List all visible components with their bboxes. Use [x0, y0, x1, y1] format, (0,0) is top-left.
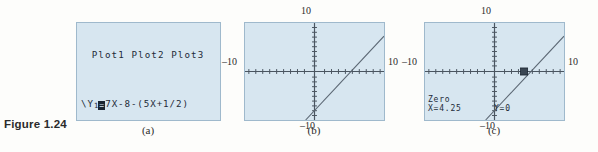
panel-label-a: (a)	[128, 124, 168, 136]
graph-c-right-axis-label: 10	[568, 56, 578, 67]
function-curve	[306, 36, 384, 120]
graph-c-left-axis-label: –10	[402, 56, 417, 67]
zero-trace-y-value: Y=0	[494, 104, 511, 113]
y-entry-row-1[interactable]: \Y1=7X-8-(5X+1/2)	[81, 98, 220, 112]
figure-caption: Figure 1.24	[4, 118, 67, 130]
graph-c-top-axis-label: 10	[481, 5, 491, 16]
calculator-y-editor-screen: Plot1 Plot2 Plot3 \Y1=7X-8-(5X+1/2) \Y2=…	[76, 22, 221, 121]
panel-label-c: (c)	[474, 124, 514, 136]
zero-trace-title: Zero	[428, 95, 450, 104]
graph-b-right-axis-label: 10	[388, 56, 398, 67]
graph-b-left-axis-label: –10	[222, 56, 237, 67]
y1-expression[interactable]: 7X-8-(5X+1/2)	[105, 98, 189, 109]
zero-trace-x-value: X=4.25	[428, 104, 462, 113]
lcd-content: Plot1 Plot2 Plot3 \Y1=7X-8-(5X+1/2) \Y2=…	[77, 23, 220, 121]
plot-tabs-row[interactable]: Plot1 Plot2 Plot3	[81, 49, 220, 61]
panel-label-b: (b)	[294, 124, 334, 136]
zero-cursor-marker	[521, 68, 528, 75]
graph-b-svg	[245, 23, 384, 120]
calculator-graph-screen-b	[244, 22, 385, 121]
graph-b-top-axis-label: 10	[301, 5, 311, 16]
y1-name: \Y	[81, 98, 94, 109]
